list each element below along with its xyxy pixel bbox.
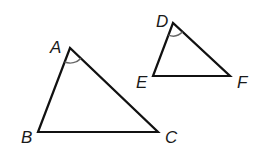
similar-triangles-diagram: A B C D E F: [0, 0, 263, 151]
vertex-label-e: E: [136, 73, 148, 92]
vertex-label-f: F: [237, 73, 249, 92]
angle-mark-a: [65, 58, 81, 63]
vertex-label-a: A: [49, 38, 61, 57]
vertex-label-b: B: [21, 128, 32, 147]
vertex-label-d: D: [156, 12, 168, 31]
vertex-label-c: C: [165, 128, 178, 147]
